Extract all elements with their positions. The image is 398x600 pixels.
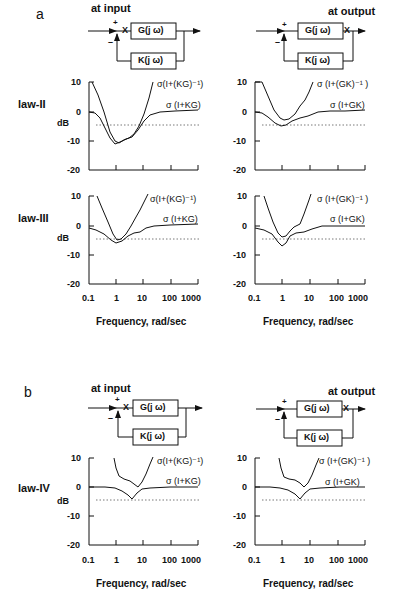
x-tick: 10	[304, 555, 314, 565]
y-tick: 10	[71, 77, 81, 87]
plot-law2-input-axes	[89, 82, 198, 170]
legend-output-inverse: σ (I+(GK)⁻¹ )	[319, 456, 370, 466]
break-point-mark: X	[122, 25, 128, 35]
x-axis-label: Frequency, rad/sec	[96, 578, 186, 589]
diagram-title-input: at input	[91, 382, 131, 394]
k-block-label: K(j ω)	[138, 55, 163, 65]
x-tick: 1	[114, 293, 119, 303]
y-tick: 0	[76, 107, 81, 117]
diagram-title-output: at output	[328, 5, 375, 17]
curve-return-diff	[255, 487, 365, 499]
legend-output: σ (I+GK)	[330, 100, 365, 110]
plot-law3-input-axes	[89, 196, 198, 284]
y-tick: 10	[237, 191, 247, 201]
legend-input-inverse: σ(I+(KG)⁻¹)	[157, 456, 203, 466]
g-block-label: G(j ω)	[140, 402, 166, 412]
x-axis-label: Frequency, rad/sec	[263, 316, 353, 327]
curve-inv-return-diff	[92, 82, 153, 143]
y-tick: -10	[67, 136, 80, 146]
x-tick: 1000	[348, 293, 368, 303]
y-tick: 10	[237, 77, 247, 87]
x-tick: 1000	[181, 555, 201, 565]
minus-sign: –	[108, 413, 113, 423]
y-tick: -10	[67, 250, 80, 260]
minus-sign: –	[108, 37, 113, 47]
x-tick: 1000	[348, 555, 368, 565]
x-axis-label: Frequency, rad/sec	[96, 316, 186, 327]
y-tick: -20	[233, 540, 246, 550]
curve-return-diff	[89, 224, 198, 243]
k-block-label: K(j ω)	[140, 431, 165, 441]
y-tick: 10	[237, 453, 247, 463]
x-axis-label: Frequency, rad/sec	[263, 578, 353, 589]
x-tick: 10	[304, 293, 314, 303]
plus-sign: +	[282, 397, 287, 406]
x-tick: 1000	[181, 293, 201, 303]
y-tick: -20	[233, 165, 246, 175]
row-label-law2: law-II	[18, 98, 46, 110]
x-tick: 0.1	[248, 555, 261, 565]
x-tick: 1	[280, 293, 285, 303]
x-tick: 100	[162, 555, 177, 565]
y-tick: 10	[71, 191, 81, 201]
legend-input-inverse: σ(I+(KG)⁻¹)	[157, 79, 203, 89]
x-tick: 0.1	[82, 293, 95, 303]
g-block-label: G(j ω)	[304, 403, 330, 413]
y-tick: -10	[233, 136, 246, 146]
x-tick: 10	[137, 293, 147, 303]
legend-input-inverse: σ(I+(KG)⁻¹)	[150, 194, 196, 204]
diagram-title-input: at input	[91, 2, 131, 14]
y-tick: 0	[242, 482, 247, 492]
g-block-label: G(j ω)	[138, 25, 164, 35]
y-tick: -20	[67, 165, 80, 175]
y-tick: -10	[233, 250, 246, 260]
minus-sign: –	[275, 414, 280, 424]
y-tick: 0	[76, 482, 81, 492]
x-tick: 0.1	[82, 555, 95, 565]
curve-return-diff	[89, 487, 198, 499]
y-axis-label: dB	[57, 496, 69, 506]
y-axis-label: dB	[57, 118, 69, 128]
legend-input: σ (I+KG)	[163, 214, 198, 224]
legend-output-inverse: σ (I+(GK)⁻¹ )	[317, 194, 368, 204]
row-label-law4: law-IV	[18, 482, 50, 494]
curve-inv-return-diff	[97, 194, 148, 240]
legend-input: σ (I+KG)	[166, 100, 201, 110]
y-axis-label: dB	[57, 233, 69, 243]
y-tick: 0	[76, 221, 81, 231]
y-tick: 0	[242, 221, 247, 231]
minus-sign: –	[275, 37, 280, 47]
plus-sign: +	[113, 18, 118, 27]
plus-sign: +	[282, 20, 287, 29]
plus-sign: +	[115, 395, 120, 404]
k-block-label: K(j ω)	[304, 432, 329, 442]
y-tick: -20	[67, 279, 80, 289]
legend-input: σ (I+KG)	[166, 476, 201, 486]
curve-return-diff	[255, 226, 365, 246]
curve-inv-return-diff	[279, 458, 319, 487]
plot-law3-output-axes	[255, 196, 365, 284]
x-tick: 0.1	[248, 293, 261, 303]
y-tick: 10	[71, 453, 81, 463]
y-tick: -20	[233, 279, 246, 289]
y-tick: -10	[67, 511, 80, 521]
plot-law4-input-axes	[89, 458, 198, 545]
x-tick: 100	[329, 293, 344, 303]
plot-law4-output-axes	[255, 458, 365, 545]
x-tick: 1	[114, 555, 119, 565]
plot-law2-output-axes	[255, 82, 365, 170]
break-point-mark: X	[343, 403, 349, 413]
curve-inv-return-diff	[264, 194, 311, 237]
x-tick: 100	[329, 555, 344, 565]
break-point-mark: X	[344, 25, 350, 35]
k-block-label: K(j ω)	[305, 55, 330, 65]
diagram-title-output: at output	[328, 385, 375, 397]
curve-inv-return-diff	[114, 457, 153, 487]
x-tick: 1	[280, 555, 285, 565]
panel-letter-a: a	[36, 6, 44, 22]
row-label-law3: law-III	[18, 212, 49, 224]
legend-output-inverse: σ (I+(GK)⁻¹ )	[317, 79, 368, 89]
panel-letter-b: b	[24, 384, 32, 400]
curve-return-diff	[255, 110, 365, 126]
x-tick: 100	[162, 293, 177, 303]
